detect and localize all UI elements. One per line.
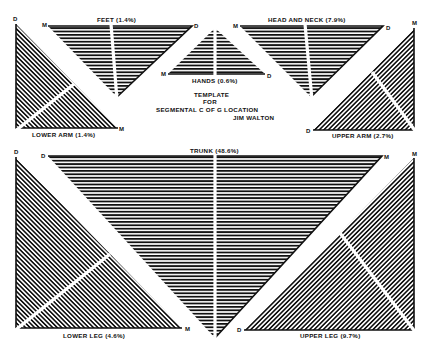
segmental-cog-template: D M LOWER ARM (1.4%) M D FEET (1.4%) M D… bbox=[0, 0, 432, 352]
lower-arm-label: LOWER ARM (1.4%) bbox=[32, 131, 95, 138]
lower-leg-distal-label: D bbox=[14, 149, 19, 155]
head-and-neck-label: HEAD AND NECK (7.9%) bbox=[268, 16, 346, 23]
lower-leg-proximal-label: M bbox=[185, 326, 190, 332]
upper-arm-distal-label: D bbox=[306, 128, 311, 134]
trunk-distal-label: D bbox=[41, 153, 46, 159]
lower-arm-distal-label: D bbox=[13, 16, 18, 22]
head-and-neck-proximal-label: M bbox=[233, 23, 238, 29]
title-line-3: SEGMENTAL C OF G LOCATION bbox=[156, 106, 259, 113]
title-block: TEMPLATE FOR SEGMENTAL C OF G LOCATION J… bbox=[156, 91, 274, 121]
upper-leg-distal-label: D bbox=[237, 327, 242, 333]
title-author: JIM WALTON bbox=[233, 114, 274, 121]
title-line-1: TEMPLATE bbox=[194, 91, 229, 98]
feet-label: FEET (1.4%) bbox=[97, 16, 136, 23]
upper-leg-proximal-label: M bbox=[412, 151, 417, 157]
hands-proximal-label: M bbox=[161, 71, 166, 77]
trunk-proximal-label: M bbox=[384, 154, 389, 160]
trunk-label: TRUNK (48.6%) bbox=[190, 147, 239, 154]
hands-label: HANDS (0.6%) bbox=[192, 77, 238, 84]
feet-distal-label: D bbox=[194, 23, 199, 29]
upper-leg-label: UPPER LEG (9.7%) bbox=[300, 332, 361, 339]
head-and-neck-distal-label: D bbox=[386, 25, 391, 31]
feet-proximal-label: M bbox=[42, 22, 47, 28]
lower-arm-proximal-label: M bbox=[119, 126, 124, 132]
upper-arm-label: UPPER ARM (2.7%) bbox=[332, 132, 394, 139]
upper-arm-proximal-label: M bbox=[412, 20, 417, 26]
hands-distal-label: D bbox=[267, 73, 272, 79]
title-line-2: FOR bbox=[203, 98, 217, 105]
lower-leg-label: LOWER LEG (4.6%) bbox=[63, 332, 125, 339]
